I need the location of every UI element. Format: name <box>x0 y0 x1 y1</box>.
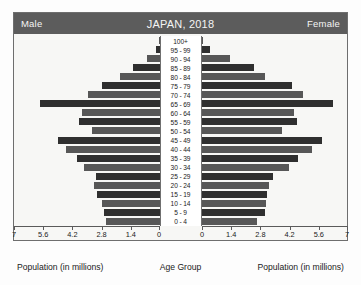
bar-female <box>202 182 270 189</box>
bar-male <box>96 173 160 180</box>
bar-female <box>202 191 268 198</box>
age-group-label: 50 - 54 <box>161 127 201 134</box>
age-group-label: 25 - 29 <box>161 173 201 180</box>
pyramid-row: 80 - 84 <box>14 72 347 81</box>
pyramid-row: 95 - 99 <box>14 45 347 54</box>
male-half <box>14 45 160 54</box>
page-title: JAPAN, 2018 <box>14 18 347 30</box>
bar-female <box>202 100 333 107</box>
age-group-cell: 60 - 64 <box>160 108 202 117</box>
pyramid-row: 55 - 59 <box>14 117 347 126</box>
age-group-label: 40 - 44 <box>161 146 201 153</box>
bar-female <box>202 127 282 134</box>
age-group-cell: 15 - 19 <box>160 190 202 199</box>
pyramid-row: 0 - 4 <box>14 217 347 226</box>
x-axis-female-line <box>202 226 348 227</box>
bar-male <box>40 100 160 107</box>
pyramid-row: 60 - 64 <box>14 108 347 117</box>
male-half <box>14 81 160 90</box>
bar-male <box>102 82 159 89</box>
x-axis-male-tick-label: 5.6 <box>38 230 48 239</box>
male-half <box>14 63 160 72</box>
x-axis-female-tick-label: 4.2 <box>284 230 294 239</box>
male-half <box>14 208 160 217</box>
bar-female <box>202 155 299 162</box>
pyramid-row: 70 - 74 <box>14 90 347 99</box>
pyramid-row: 20 - 24 <box>14 181 347 190</box>
male-half <box>14 172 160 181</box>
bar-female <box>202 137 323 144</box>
x-axis-female-tick-label: 1.4 <box>226 230 236 239</box>
female-half <box>202 90 348 99</box>
pyramid-row: 5 - 9 <box>14 208 347 217</box>
female-half <box>202 145 348 154</box>
pyramid-row: 15 - 19 <box>14 190 347 199</box>
age-group-cell: 5 - 9 <box>160 208 202 217</box>
bar-male <box>79 118 159 125</box>
bar-female <box>202 209 266 216</box>
age-group-cell: 50 - 54 <box>160 126 202 135</box>
female-half <box>202 117 348 126</box>
age-group-label: 85 - 89 <box>161 64 201 71</box>
female-half <box>202 217 348 226</box>
age-group-label: 70 - 74 <box>161 91 201 98</box>
female-half <box>202 163 348 172</box>
bar-rows: 100+95 - 9990 - 9485 - 8980 - 8475 - 797… <box>14 36 347 226</box>
age-group-cell: 30 - 34 <box>160 163 202 172</box>
age-group-label: 15 - 19 <box>161 191 201 198</box>
x-axis-female: 01.42.84.25.67 <box>202 226 348 240</box>
female-half <box>202 208 348 217</box>
pyramid-row: 45 - 49 <box>14 136 347 145</box>
bar-male <box>106 218 159 225</box>
pyramid-row: 50 - 54 <box>14 126 347 135</box>
female-half <box>202 199 348 208</box>
bar-male <box>147 55 160 62</box>
legend-female-label: Female <box>307 18 340 29</box>
female-half <box>202 63 348 72</box>
x-axis-male-line <box>14 226 160 227</box>
age-group-cell: 95 - 99 <box>160 45 202 54</box>
x-axis-male-tick-label: 0 <box>157 230 161 239</box>
age-group-label: 35 - 39 <box>161 155 201 162</box>
female-half <box>202 81 348 90</box>
male-half <box>14 90 160 99</box>
male-half <box>14 163 160 172</box>
age-group-cell: 35 - 39 <box>160 154 202 163</box>
pyramid-row: 10 - 14 <box>14 199 347 208</box>
female-half <box>202 45 348 54</box>
bar-male <box>66 146 160 153</box>
female-half <box>202 154 348 163</box>
bar-female <box>202 37 203 44</box>
x-axis-male: 75.64.22.81.40 <box>14 226 160 240</box>
bar-female <box>202 109 295 116</box>
pyramid-row: 40 - 44 <box>14 145 347 154</box>
bar-male <box>82 109 159 116</box>
bar-male <box>94 182 160 189</box>
female-half <box>202 136 348 145</box>
x-axis-male-tick-label: 4.2 <box>67 230 77 239</box>
male-half <box>14 136 160 145</box>
female-half <box>202 190 348 199</box>
male-half <box>14 126 160 135</box>
age-group-label: 75 - 79 <box>161 82 201 89</box>
age-group-cell: 40 - 44 <box>160 145 202 154</box>
pyramid-row: 35 - 39 <box>14 154 347 163</box>
bar-male <box>88 91 160 98</box>
age-group-cell: 55 - 59 <box>160 117 202 126</box>
female-half <box>202 172 348 181</box>
age-group-cell: 0 - 4 <box>160 217 202 226</box>
pyramid-row: 100+ <box>14 36 347 45</box>
bar-male <box>84 164 159 171</box>
male-half <box>14 54 160 63</box>
x-axis-female-tick-label: 5.6 <box>314 230 324 239</box>
chart-header: Male JAPAN, 2018 Female <box>14 13 347 34</box>
age-group-label: 30 - 34 <box>161 164 201 171</box>
bar-female <box>202 164 290 171</box>
x-axis-male-tick-label: 2.8 <box>96 230 106 239</box>
pyramid-row: 90 - 94 <box>14 54 347 63</box>
chart-frame: Male JAPAN, 2018 Female 100+95 - 9990 - … <box>13 12 348 241</box>
female-half <box>202 54 348 63</box>
x-axis-male-tick-label: 1.4 <box>126 230 136 239</box>
pyramid-row: 25 - 29 <box>14 172 347 181</box>
age-group-cell: 10 - 14 <box>160 199 202 208</box>
